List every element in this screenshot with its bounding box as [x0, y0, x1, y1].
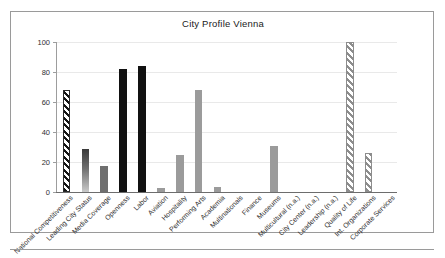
bar-leading-city-status[interactable] [82, 149, 90, 193]
screenshot-root: City Profile Vienna 020406080100 Nationa… [0, 0, 445, 258]
footer-divider [10, 249, 434, 250]
x-axis-line [56, 192, 397, 193]
y-tick-label: 80 [10, 68, 50, 77]
bar-aviation[interactable] [157, 188, 165, 192]
plot-area: 020406080100 National CompetitivenessLea… [57, 42, 397, 192]
y-tick-label: 40 [10, 128, 50, 137]
bar-int-organizations[interactable] [365, 153, 373, 192]
bar-hospitality[interactable] [176, 155, 184, 193]
bar-quality-of-life[interactable] [346, 42, 354, 192]
chart-title: City Profile Vienna [11, 18, 435, 29]
bar-openness[interactable] [119, 69, 127, 192]
bar-museums[interactable] [270, 146, 278, 193]
bar-labor[interactable] [138, 66, 146, 192]
bar-media-coverage[interactable] [100, 166, 108, 192]
y-tick-label: 60 [10, 98, 50, 107]
y-axis-line [56, 42, 57, 192]
bar-national-competitiveness[interactable] [63, 90, 71, 192]
bar-academia[interactable] [214, 187, 222, 192]
y-tick-label: 20 [10, 158, 50, 167]
chart-frame: City Profile Vienna 020406080100 Nationa… [10, 11, 434, 233]
bar-performing-arts[interactable] [195, 90, 203, 192]
y-tick-label: 100 [10, 38, 50, 47]
y-tick-label: 0 [10, 188, 50, 197]
